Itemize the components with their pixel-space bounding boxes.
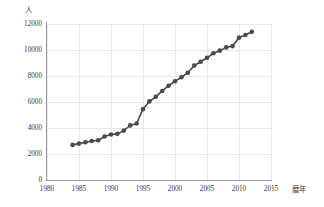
x-axis-title: 暦年	[292, 183, 306, 194]
data-point	[109, 132, 114, 137]
data-point	[115, 132, 120, 137]
data-point	[224, 45, 229, 50]
x-axis-line	[46, 180, 272, 181]
data-point	[205, 56, 210, 61]
data-point	[192, 63, 197, 68]
data-point	[102, 134, 107, 139]
x-tick-label: 1980	[32, 185, 62, 193]
y-axis-unit-label: 人	[25, 4, 32, 15]
data-point	[186, 70, 191, 75]
data-point	[173, 79, 178, 84]
y-tick-label: 0	[8, 176, 42, 184]
x-tick-label: 1990	[96, 185, 126, 193]
line-chart: 人 020004000600080001000012000 1980198519…	[0, 0, 324, 207]
data-point	[218, 48, 223, 53]
data-point	[211, 51, 216, 56]
data-point	[147, 99, 152, 104]
data-series	[47, 24, 271, 180]
data-point	[198, 59, 203, 64]
data-point	[90, 139, 95, 144]
data-point	[128, 123, 133, 128]
data-point	[83, 140, 88, 145]
data-point	[154, 95, 159, 100]
vertical-gridline	[271, 24, 272, 180]
y-tick-label: 2000	[8, 150, 42, 158]
y-tick-label: 6000	[8, 98, 42, 106]
y-tick-label: 12000	[8, 20, 42, 28]
y-tick-label: 4000	[8, 124, 42, 132]
x-tick-label: 2005	[192, 185, 222, 193]
data-point	[134, 121, 139, 126]
data-point	[237, 35, 242, 40]
x-tick-label: 2000	[160, 185, 190, 193]
data-point	[122, 128, 127, 133]
data-point	[70, 143, 75, 148]
data-point	[230, 44, 235, 49]
data-point	[243, 33, 248, 38]
data-point	[141, 107, 146, 112]
x-tick-label: 1985	[64, 185, 94, 193]
data-point	[179, 75, 184, 80]
data-point	[77, 141, 82, 146]
data-point	[160, 89, 165, 94]
x-tick-label: 2010	[224, 185, 254, 193]
x-tick-label: 1995	[128, 185, 158, 193]
x-tick-label: 2015	[256, 185, 286, 193]
plot-area	[47, 24, 271, 180]
data-point	[96, 138, 101, 143]
data-point	[166, 83, 171, 88]
y-tick-label: 8000	[8, 72, 42, 80]
y-tick-label: 10000	[8, 46, 42, 54]
data-point	[250, 30, 255, 35]
